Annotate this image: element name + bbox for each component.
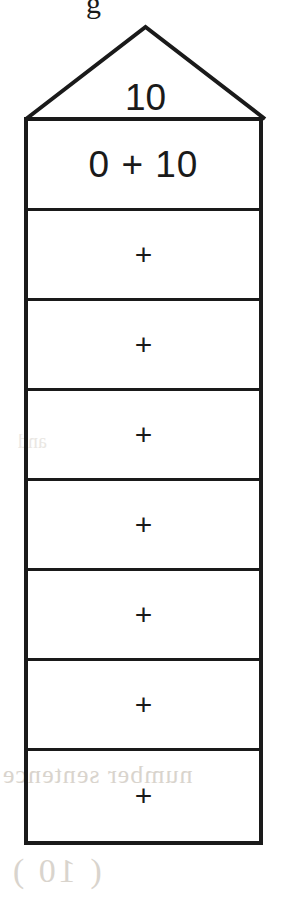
scan-artifact-top-fragment: g — [86, 0, 101, 20]
house-row[interactable]: + — [28, 301, 259, 391]
house-roof: 10 — [24, 22, 267, 121]
house-row[interactable]: + — [28, 211, 259, 301]
house-row[interactable]: + — [28, 571, 259, 661]
house-body: 0 + 10 + + + + + + + — [24, 117, 263, 845]
house-row[interactable]: + — [28, 391, 259, 481]
roof-target-number: 10 — [125, 77, 166, 118]
house-row[interactable]: + — [28, 751, 259, 841]
scan-artifact-bleed-line-2: ( 10 ) — [10, 852, 102, 890]
number-house-diagram: 10 0 + 10 + + + + + + + — [24, 22, 267, 845]
house-row[interactable]: + — [28, 481, 259, 571]
house-row[interactable]: 0 + 10 — [28, 121, 259, 211]
house-row[interactable]: + — [28, 661, 259, 751]
